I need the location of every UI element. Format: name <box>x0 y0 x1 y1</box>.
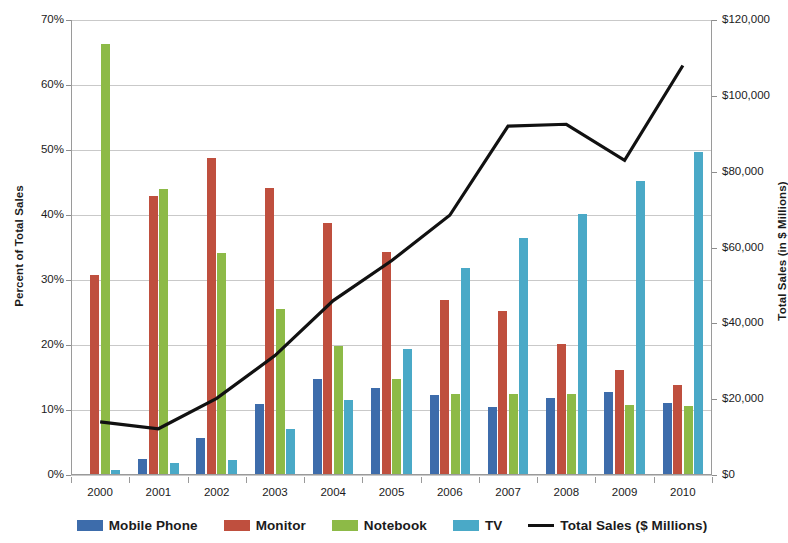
x-axis-separator <box>304 477 305 483</box>
x-tick-label: 2006 <box>437 486 463 498</box>
tickmark-right <box>712 399 717 400</box>
tickmark-right <box>712 20 717 21</box>
x-axis-separator <box>362 477 363 483</box>
gridline <box>71 475 712 476</box>
legend-item[interactable]: Mobile Phone <box>77 518 198 533</box>
tickmark-right <box>712 96 717 97</box>
x-tick-label: 2005 <box>379 486 405 498</box>
legend-label: Monitor <box>256 518 306 533</box>
x-tick-label: 2002 <box>204 486 230 498</box>
plot-area <box>71 20 712 475</box>
x-axis-separator <box>595 477 596 483</box>
x-tick-label: 2008 <box>554 486 580 498</box>
x-axis-separator <box>246 477 247 483</box>
tickmark-right <box>712 248 717 249</box>
legend-swatch-icon <box>332 520 358 531</box>
x-axis-separator <box>188 477 189 483</box>
x-axis-separator <box>479 477 480 483</box>
x-tick-label: 2003 <box>262 486 288 498</box>
x-tick-label: 2001 <box>146 486 172 498</box>
legend-item[interactable]: TV <box>453 518 502 533</box>
legend-item[interactable]: Notebook <box>332 518 427 533</box>
tickmark-right <box>712 172 717 173</box>
legend-swatch-icon <box>224 520 250 531</box>
legend-item[interactable]: Total Sales ($ Millions) <box>528 518 707 533</box>
x-axis-separator <box>421 477 422 483</box>
x-axis-separator <box>71 477 72 483</box>
legend-label: Mobile Phone <box>109 518 198 533</box>
x-axis-separator <box>537 477 538 483</box>
tickmark-right <box>712 323 717 324</box>
legend-item[interactable]: Monitor <box>224 518 306 533</box>
chart-legend: Mobile PhoneMonitorNotebookTVTotal Sales… <box>0 507 784 543</box>
legend-swatch-icon <box>77 520 103 531</box>
x-tick-label: 2009 <box>612 486 638 498</box>
legend-swatch-icon <box>453 520 479 531</box>
x-axis-separator <box>654 477 655 483</box>
x-axis-separator <box>129 477 130 483</box>
legend-line-icon <box>528 524 554 527</box>
legend-label: TV <box>485 518 502 533</box>
x-axis-separator <box>712 477 713 483</box>
x-tick-label: 2007 <box>495 486 521 498</box>
x-axis: 2000200120022003200420052006200720082009… <box>71 478 712 504</box>
x-tick-label: 2010 <box>670 486 696 498</box>
x-tick-label: 2004 <box>320 486 346 498</box>
x-tick-label: 2000 <box>87 486 113 498</box>
tickmark-right <box>712 475 717 476</box>
plot-border <box>71 20 712 475</box>
legend-label: Total Sales ($ Millions) <box>560 518 707 533</box>
legend-label: Notebook <box>364 518 427 533</box>
